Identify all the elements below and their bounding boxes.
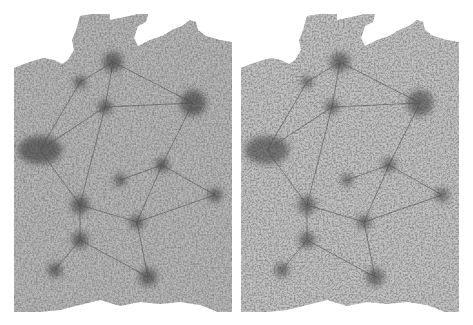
map-left-svg bbox=[0, 0, 236, 325]
land-area bbox=[227, 0, 463, 325]
map-right-svg bbox=[227, 0, 463, 325]
land-area bbox=[0, 0, 236, 325]
left-road-density-map bbox=[0, 0, 236, 325]
right-road-density-map bbox=[227, 0, 463, 325]
